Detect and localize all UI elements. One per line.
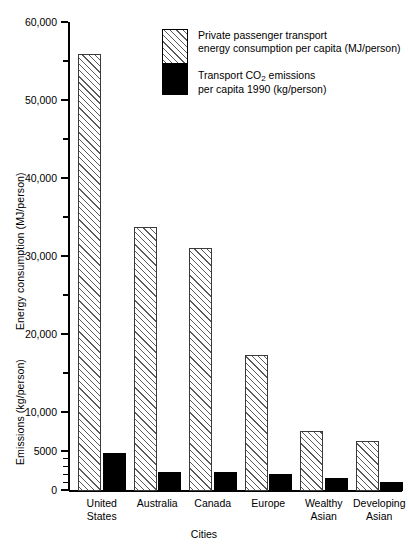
y-tick-major xyxy=(61,99,68,100)
bar-emissions xyxy=(214,472,237,492)
bar-emissions xyxy=(269,474,292,491)
y-tick-label: 20,000 xyxy=(25,329,57,340)
x-category-label: DevelopingAsian xyxy=(339,497,408,522)
y-tick-label: 30,000 xyxy=(25,251,57,262)
bar-emissions xyxy=(380,482,403,491)
y-tick-major xyxy=(61,21,68,22)
y-tick-major xyxy=(61,177,68,178)
legend-label-energy: Private passenger transport energy consu… xyxy=(198,29,401,55)
legend-label-emissions-line1: Transport CO2 emissions xyxy=(198,69,326,83)
x-axis-label: Cities xyxy=(0,528,408,540)
y-tick-minor xyxy=(63,294,68,295)
y-tick-minor xyxy=(63,138,68,139)
x-category-label-line2: Asian xyxy=(339,510,408,523)
chart-figure: Energy consumption (MJ/person) Emissions… xyxy=(0,0,408,546)
y-tick-minor xyxy=(63,458,68,459)
y-tick-minor xyxy=(63,482,68,483)
y-tick-label: 60,000 xyxy=(25,17,57,28)
legend-swatch xyxy=(162,29,188,95)
y-tick-minor xyxy=(63,372,68,373)
legend-label-emissions: Transport CO2 emissions per capita 1990 … xyxy=(198,69,326,96)
y-tick-minor xyxy=(63,466,68,467)
x-category-label-line1: Developing xyxy=(339,497,408,510)
legend-label-emissions-suffix: emissions xyxy=(266,69,316,81)
legend-swatch-energy-icon xyxy=(163,30,187,63)
bar-emissions xyxy=(325,478,348,491)
legend-label-energy-line1: Private passenger transport xyxy=(198,29,401,42)
legend-label-energy-line2: energy consumption per capita (MJ/person… xyxy=(198,42,401,55)
y-tick-label: 5000 xyxy=(34,446,57,457)
bar-energy xyxy=(300,431,323,491)
y-tick-minor xyxy=(63,474,68,475)
y-tick-label: 50,000 xyxy=(25,95,57,106)
bar-energy xyxy=(134,227,157,491)
y-tick-major xyxy=(61,450,68,451)
bar-emissions xyxy=(158,472,181,492)
y-tick-minor xyxy=(63,60,68,61)
y-tick-major xyxy=(61,255,68,256)
legend-label-emissions-co: Transport CO xyxy=(198,69,261,81)
bar-energy xyxy=(245,355,268,492)
y-tick-label: 0 xyxy=(51,485,57,496)
legend-label-emissions-subscript: 2 xyxy=(261,74,265,83)
y-tick-major xyxy=(61,489,68,490)
bar-emissions xyxy=(103,453,126,491)
y-tick-major xyxy=(61,333,68,334)
y-tick-minor xyxy=(63,216,68,217)
bar-energy xyxy=(356,441,379,491)
x-category-label-line2: States xyxy=(62,510,142,523)
bar-energy xyxy=(78,54,101,491)
bar-energy xyxy=(189,248,212,491)
y-tick-major xyxy=(61,411,68,412)
y-tick-label: 10,000 xyxy=(25,407,57,418)
legend-label-emissions-line2: per capita 1990 (kg/person) xyxy=(198,83,326,96)
y-tick-label: 40,000 xyxy=(25,173,57,184)
legend-swatch-emissions-icon xyxy=(163,63,187,94)
